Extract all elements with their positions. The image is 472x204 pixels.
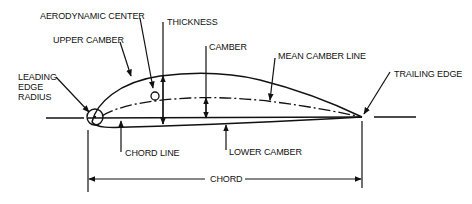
trailing-edge-label: TRAILING EDGE: [394, 69, 462, 79]
aerodynamic-center-label: AERODYNAMIC CENTER: [40, 11, 145, 21]
chord-line-label: CHORD LINE: [125, 148, 180, 158]
aerodynamic-center-marker: [151, 92, 159, 100]
leading-edge-radius-label-line3: RADIUS: [18, 92, 52, 102]
leading-edge-radius-label-line1: LEADING: [18, 72, 57, 82]
airfoil-lower-surface: [92, 117, 362, 127]
upper-camber-label: UPPER CAMBER: [53, 35, 124, 45]
leading-edge-center-dot: [94, 116, 96, 118]
leading-edge-radius-leader: [56, 77, 89, 112]
chord-label: CHORD: [210, 174, 243, 184]
mean-camber-line-label: MEAN CAMBER LINE: [278, 51, 366, 61]
aerodynamic-center-leader: [140, 18, 153, 88]
trailing-edge-leader: [364, 72, 390, 114]
airfoil-diagram: AERODYNAMIC CENTER THICKNESS UPPER CAMBE…: [0, 0, 472, 204]
upper-camber-leader: [120, 42, 131, 76]
lower-camber-label: LOWER CAMBER: [229, 147, 302, 157]
camber-label: CAMBER: [209, 42, 248, 52]
chord-line: [88, 117, 362, 118]
thickness-label: THICKNESS: [167, 17, 218, 27]
mean-camber-line-leader: [270, 58, 275, 100]
leading-edge-radius-label-line2: EDGE: [18, 82, 43, 92]
